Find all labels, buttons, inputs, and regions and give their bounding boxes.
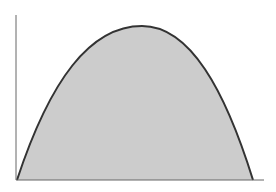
area-fill (17, 26, 253, 180)
area-chart (0, 0, 276, 192)
